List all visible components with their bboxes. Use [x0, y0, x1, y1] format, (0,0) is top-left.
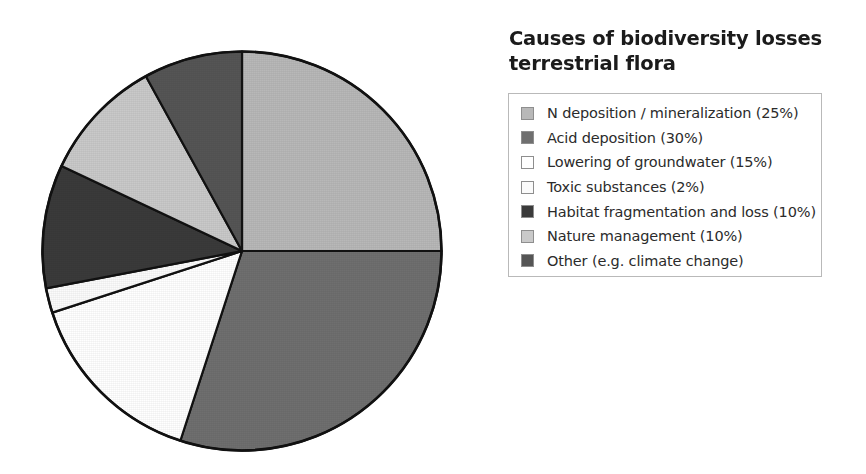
legend-swatch-n-deposition [521, 107, 534, 120]
legend-swatch-lowering-groundwater [521, 156, 534, 169]
legend-swatch-acid-deposition [521, 131, 534, 144]
pie-slice [242, 52, 442, 252]
chart-title-line-1: Causes of biodiversity losses [509, 26, 839, 51]
legend-item: Acid deposition (30%) [509, 126, 821, 151]
pie-slice-group [42, 52, 441, 451]
legend-swatch-other [521, 254, 534, 267]
legend-item: Nature management (10%) [509, 224, 821, 249]
chart-title-line-2: terrestrial flora [509, 51, 839, 76]
legend-item-label: Nature management (10%) [547, 228, 743, 244]
legend-swatch-nature-management [521, 230, 534, 243]
legend-item-label: N deposition / mineralization (25%) [547, 105, 798, 121]
pie-chart-figure: Causes of biodiversity losses terrestria… [0, 0, 866, 474]
pie-chart [41, 50, 443, 452]
legend-item-label: Lowering of groundwater (15%) [547, 154, 772, 170]
chart-legend: N deposition / mineralization (25%)Acid … [508, 93, 822, 277]
chart-title: Causes of biodiversity losses terrestria… [509, 26, 839, 76]
legend-item: Habitat fragmentation and loss (10%) [509, 199, 821, 224]
legend-item-label: Acid deposition (30%) [547, 130, 703, 146]
legend-item: Toxic substances (2%) [509, 175, 821, 200]
legend-item: Lowering of groundwater (15%) [509, 150, 821, 175]
legend-item: Other (e.g. climate change) [509, 249, 821, 274]
legend-swatch-habitat-fragmentation [521, 205, 534, 218]
legend-swatch-toxic-substances [521, 181, 534, 194]
pie-chart-svg [41, 50, 443, 452]
legend-item-label: Habitat fragmentation and loss (10%) [547, 204, 816, 220]
legend-item-label: Other (e.g. climate change) [547, 253, 744, 269]
legend-item-label: Toxic substances (2%) [547, 179, 705, 195]
legend-item: N deposition / mineralization (25%) [509, 101, 821, 126]
